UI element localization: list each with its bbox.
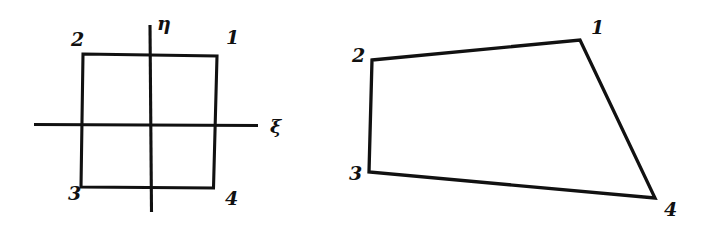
xi-axis-line [34, 125, 258, 126]
xi-axis-label: ξ [270, 115, 283, 137]
right-node-label-3: 3 [349, 162, 362, 184]
left-node-label-3: 3 [68, 182, 81, 204]
right-node-label-2: 2 [351, 44, 365, 66]
diagram-canvas: 2 1 3 4 η ξ 2 1 3 4 [0, 0, 703, 228]
eta-axis-line [150, 25, 152, 212]
right-node-label-4: 4 [664, 198, 677, 220]
left-panel-parent-element: 2 1 3 4 η ξ [34, 12, 283, 212]
right-panel-physical-element: 2 1 3 4 [349, 16, 677, 220]
left-node-label-1: 1 [226, 26, 239, 48]
physical-quadrilateral-outline [369, 40, 655, 198]
right-node-label-1: 1 [591, 16, 604, 38]
eta-axis-label: η [157, 12, 171, 34]
diagram-root: 2 1 3 4 η ξ 2 1 3 4 [0, 0, 703, 228]
left-node-label-4: 4 [225, 187, 238, 209]
left-node-label-2: 2 [70, 28, 84, 50]
